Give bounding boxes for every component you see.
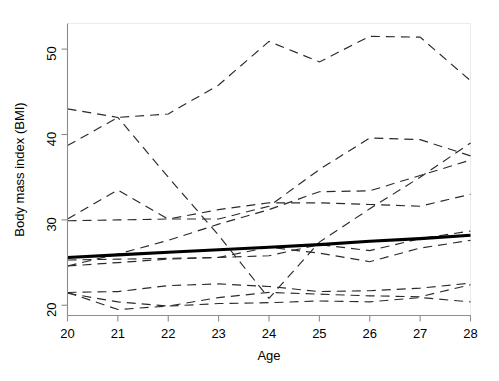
x-tick-label-21: 21 <box>111 326 125 341</box>
chart-background <box>0 0 499 381</box>
x-tick-label-28: 28 <box>463 326 477 341</box>
x-tick-label-24: 24 <box>262 326 276 341</box>
y-tick-label-50: 50 <box>45 46 60 60</box>
x-tick-label-23: 23 <box>211 326 225 341</box>
chart-canvas: 20304050202122232425262728 Age Body mass… <box>0 0 499 381</box>
x-tick-label-20: 20 <box>60 326 74 341</box>
x-tick-label-26: 26 <box>363 326 377 341</box>
x-axis-title: Age <box>257 348 280 363</box>
x-tick-label-27: 27 <box>413 326 427 341</box>
y-tick-label-40: 40 <box>45 132 60 146</box>
bmi-by-age-chart: 20304050202122232425262728 Age Body mass… <box>0 0 499 381</box>
x-tick-label-22: 22 <box>161 326 175 341</box>
y-axis-title: Body mass index (BMI) <box>12 102 27 236</box>
x-tick-label-25: 25 <box>312 326 326 341</box>
y-tick-label-20: 20 <box>45 303 60 317</box>
y-tick-label-30: 30 <box>45 217 60 231</box>
